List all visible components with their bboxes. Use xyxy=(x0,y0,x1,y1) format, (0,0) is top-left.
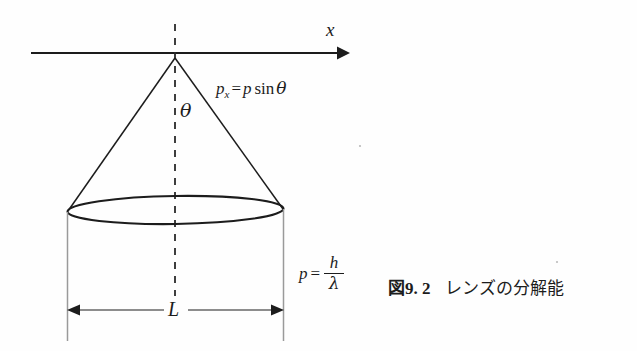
figure-container: x θ px=psinθ L p = h λ 図9. 2レンズの分解能 xyxy=(0,0,637,351)
momentum-symbol-p: p xyxy=(299,265,311,282)
px-equation-label: px=psinθ xyxy=(216,80,287,100)
x-axis-group xyxy=(31,47,350,60)
planck-over-lambda-fraction: h λ xyxy=(324,254,344,293)
scan-speck-lower xyxy=(556,261,558,263)
x-axis-label: x xyxy=(326,20,334,39)
caption-number: 9. 2 xyxy=(405,279,431,298)
cone-left-edge xyxy=(68,58,175,211)
momentum-equals-sign: = xyxy=(311,265,325,282)
caption-text: レンズの分解能 xyxy=(445,278,564,298)
theta-angle-label: θ xyxy=(180,101,191,120)
px-sin-function: sin xyxy=(251,79,276,98)
px-theta-symbol: θ xyxy=(276,78,286,98)
momentum-equation-label: p = h λ xyxy=(299,254,344,293)
px-symbol-p: p xyxy=(216,79,225,98)
dimension-arrowhead-right xyxy=(271,305,284,316)
fraction-numerator-h: h xyxy=(326,254,343,273)
scan-speck-upper xyxy=(359,145,361,147)
px-equals-sign: = xyxy=(229,79,243,98)
x-axis-arrowhead xyxy=(337,47,350,60)
caption-figure-word: 図 xyxy=(388,278,405,298)
figure-caption: 図9. 2レンズの分解能 xyxy=(388,274,564,299)
fraction-denominator-lambda: λ xyxy=(325,274,344,293)
aperture-width-label: L xyxy=(168,299,179,319)
